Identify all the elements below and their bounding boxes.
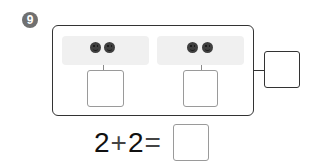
equation: 2 + 2 =: [94, 124, 162, 161]
equals-sign: =: [145, 127, 161, 159]
smiley-face-icon: [90, 42, 101, 53]
total-answer-box[interactable]: [264, 51, 300, 88]
problem-number-badge: 9: [22, 12, 38, 28]
smiley-face-icon: [187, 42, 198, 53]
operand-1: 2: [94, 127, 110, 159]
plus-operator: +: [111, 127, 127, 159]
group-right-answer-box[interactable]: [183, 70, 218, 107]
smiley-face-icon: [104, 42, 115, 53]
smiley-face-icon: [202, 42, 213, 53]
connector-line: [254, 70, 264, 72]
group-panel-right: [157, 36, 244, 65]
operand-2: 2: [128, 127, 144, 159]
group-left-answer-box[interactable]: [87, 70, 124, 107]
equation-answer-box[interactable]: [173, 124, 209, 161]
